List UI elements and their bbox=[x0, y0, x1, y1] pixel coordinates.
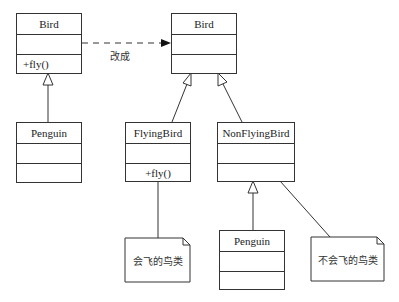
class-attributes bbox=[126, 144, 190, 164]
note-non-flying-birds: 不会飞的鸟类 bbox=[311, 252, 385, 267]
generalization-line bbox=[172, 84, 187, 122]
class-bird-refactored[interactable]: Bird bbox=[171, 13, 237, 74]
class-bird-original[interactable]: Bird +fly() bbox=[16, 13, 82, 74]
class-name: Bird bbox=[172, 14, 236, 35]
note-flying-birds: 会飞的鸟类 bbox=[125, 253, 190, 268]
class-name: Penguin bbox=[220, 231, 284, 252]
class-operations bbox=[220, 272, 284, 291]
class-operations bbox=[17, 164, 81, 183]
note-link-line bbox=[280, 181, 330, 237]
class-operations: +fly() bbox=[17, 55, 81, 74]
class-attributes bbox=[17, 144, 81, 164]
class-name: Penguin bbox=[17, 123, 81, 144]
class-attributes bbox=[17, 35, 81, 55]
class-attributes bbox=[218, 144, 294, 164]
class-name: Bird bbox=[17, 14, 81, 35]
transform-label: 改成 bbox=[110, 48, 130, 63]
class-flying-bird[interactable]: FlyingBird +fly() bbox=[125, 122, 191, 182]
class-penguin-refactored[interactable]: Penguin bbox=[219, 230, 285, 290]
class-operations: +fly() bbox=[126, 164, 190, 183]
class-penguin-original[interactable]: Penguin bbox=[16, 122, 82, 183]
hollow-triangle-arrow-icon bbox=[218, 73, 227, 86]
class-operations bbox=[218, 164, 294, 183]
generalization-line bbox=[223, 84, 242, 122]
class-name: FlyingBird bbox=[126, 123, 190, 144]
class-non-flying-bird[interactable]: NonFlyingBird bbox=[217, 122, 295, 182]
filled-arrowhead-icon bbox=[161, 39, 171, 47]
class-attributes bbox=[172, 35, 236, 55]
class-name: NonFlyingBird bbox=[218, 123, 294, 144]
class-attributes bbox=[220, 252, 284, 272]
hollow-triangle-arrow-icon bbox=[183, 73, 191, 86]
hollow-triangle-arrow-icon bbox=[43, 73, 53, 85]
class-operations bbox=[172, 55, 236, 74]
